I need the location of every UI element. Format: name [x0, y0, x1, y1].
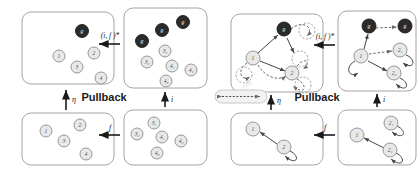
box-bottom-left — [231, 113, 323, 165]
graph-node-label: 4₂ — [189, 67, 194, 73]
graph-node-label: 2 — [283, 144, 286, 150]
graph-node-label: 3 — [75, 64, 79, 70]
graph-node-label: 4 — [85, 151, 88, 157]
graph-node-label: g — [161, 27, 164, 33]
arrow-label-bottom: f — [324, 123, 328, 132]
graph-node-label: g — [81, 28, 84, 34]
box-bottom-right — [338, 110, 416, 165]
figure-canvas: (i, f )* f η i Pullback g1234 ggg3₁3₂4₁4… — [0, 0, 418, 170]
graph-node-label: 2 — [291, 70, 294, 76]
graph-node-label: 4₁ — [170, 63, 175, 69]
graph-node-label: 2₂ — [388, 147, 393, 153]
pullback-caption: Pullback — [294, 91, 340, 103]
graph-node-label: 3 — [62, 138, 66, 144]
arrow-label-top: (i, f )* — [316, 32, 335, 41]
graph-node-label: 2₂ — [392, 70, 397, 76]
graph-node-label: 1 — [252, 126, 255, 132]
graph-node-label: 3₂ — [134, 131, 140, 137]
arrow-label-i: i — [171, 95, 173, 104]
graph-node-label: 3₂ — [144, 59, 150, 65]
arrow-label-eta: η — [277, 96, 281, 105]
graph-node-label: g — [141, 38, 144, 44]
graph-node-label: 4₃ — [155, 150, 160, 156]
arrow-label-eta: η — [72, 95, 76, 104]
graphs-pullback-diagram: (i, f )* f η i Pullback — [209, 0, 418, 170]
graph-node-label: g — [182, 19, 185, 25]
graph-node-label: 1 — [58, 53, 61, 59]
graph-node-label: 1 — [252, 55, 255, 61]
graph-node-label: 4 — [100, 75, 103, 81]
graph-node-label: 2 — [79, 122, 82, 128]
graph-node-label: 1 — [356, 132, 359, 138]
graph-node-label: 4₃ — [164, 78, 169, 84]
graph-node-label: 2 — [93, 50, 96, 56]
graph-node-label: 4₁ — [160, 134, 165, 140]
graph-node-label: 2₁ — [389, 120, 394, 126]
graph-node-label: g — [404, 23, 407, 29]
graph-node-label: 3₁ — [151, 120, 157, 126]
graph-node-label: 1 — [45, 128, 48, 134]
left-diagram-svg: (i, f )* f η i Pullback g1234 ggg3₁3₂4₁4… — [0, 0, 209, 170]
arrow-label-top: (i, f )* — [101, 31, 120, 40]
right-diagram-svg: (i, f )* f η i Pullback — [209, 0, 418, 170]
graph-node-label: g — [283, 26, 286, 32]
box-top-left — [231, 14, 323, 92]
graph-node-label: 1 — [360, 53, 363, 59]
graph-node-label: 4₂ — [179, 138, 184, 144]
graph-node-label: g — [368, 23, 371, 29]
sets-pullback-diagram: (i, f )* f η i Pullback g1234 ggg3₁3₂4₁4… — [0, 0, 209, 170]
graph-node-label: 2₁ — [398, 47, 403, 53]
graph-node-label: 3₁ — [162, 48, 168, 54]
pullback-caption: Pullback — [81, 91, 127, 103]
arrow-label-i: i — [383, 95, 385, 104]
